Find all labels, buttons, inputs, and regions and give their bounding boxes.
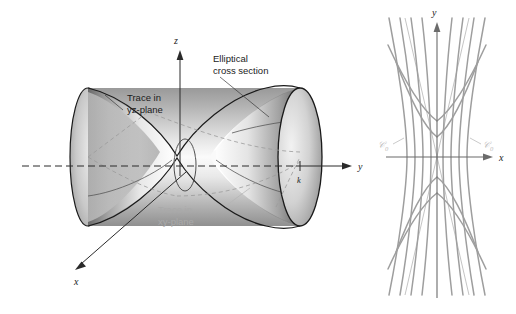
left-panel-hyperboloid: z y k x Trace in yz-plane Elliptical cro… [22,35,363,287]
z-axis-label: z [173,35,178,46]
y-axis-label: y [357,161,363,172]
surface-bottom-right-outline [266,226,300,228]
y-axis-tick-label-k: k [297,175,301,185]
curve-label-left: 𝒞0 [378,140,389,152]
trace-xy-line2: xy-plane [158,216,194,227]
surface-top-right-outline [266,86,300,88]
curve-label-right: 𝒞0 [483,140,494,152]
y-axis-arrowhead [342,163,352,170]
curve-label-left-subscript: 0 [385,145,389,152]
trace-yz-line2: yz-plane [127,104,163,115]
figure-root: z y k x Trace in yz-plane Elliptical cro… [0,0,516,314]
x-axis-arrowhead [75,262,86,271]
right-x-axis-label: x [498,152,504,163]
trace-yz-annotation: Trace in yz-plane [127,92,164,115]
curve-label-right-subscript: 0 [490,145,494,152]
trace-xy-line1: Trace in [158,204,192,215]
elliptical-cross-section-annotation: Elliptical cross section [213,53,268,76]
x-axis-label: x [73,276,79,287]
right-y-axis-label: y [431,7,437,18]
elliptical-cross-section-line2: cross section [213,65,268,76]
z-axis-arrowhead [177,50,184,60]
right-panel-level-curves: x y 𝒞0 𝒞0 [378,7,504,298]
elliptical-cross-section-line1: Elliptical [213,53,248,64]
trace-xy-annotation: Trace in xy-plane [158,204,195,227]
figure-svg: z y k x Trace in yz-plane Elliptical cro… [0,0,516,314]
curve-label-left-leader [393,138,404,144]
right-end-cap-elliptical-cross-section [278,88,322,226]
right-x-axis-arrowhead [483,154,493,161]
trace-yz-line1: Trace in [127,92,161,103]
curve-label-right-leader [470,138,481,144]
right-y-axis-arrowhead [434,22,441,32]
